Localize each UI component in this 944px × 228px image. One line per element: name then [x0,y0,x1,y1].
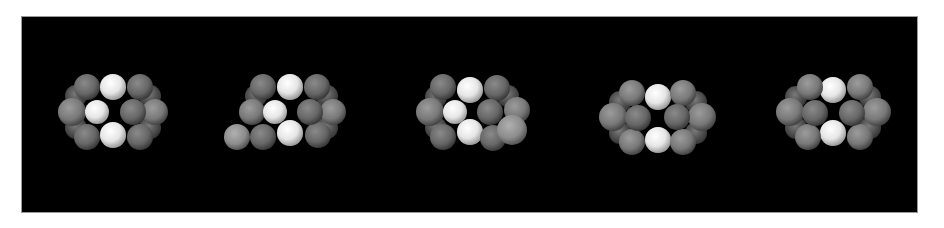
dark-atom [297,99,323,125]
mid-atom [416,98,444,126]
cluster-2 [224,74,346,150]
dark-atom [305,122,331,148]
dark-atom [304,74,330,100]
dark-atom [120,99,146,125]
white-atom [277,74,303,100]
white-atom [263,100,287,124]
light-atom [497,115,527,145]
mid-atom [619,129,645,155]
mid-atom [670,80,696,106]
dark-atom [430,74,456,100]
dark-atom [74,124,100,150]
dark-atom [802,100,828,126]
mid-atom [239,99,265,125]
mid-atom [863,98,891,126]
white-atom [820,120,846,146]
mid-atom [847,74,873,100]
mid-atom [670,129,696,155]
white-atom [645,127,671,153]
mid-atom [688,103,716,131]
cluster-3 [416,74,530,151]
mid-atom [795,124,821,150]
white-atom [443,100,467,124]
mid-atom [58,98,86,126]
mid-atom [776,98,804,126]
dark-atom [664,104,690,130]
white-atom [820,77,846,103]
dark-atom [127,74,153,100]
mid-atom [599,103,627,131]
white-atom [100,122,126,148]
cluster-1 [58,74,168,150]
dark-atom [625,105,651,131]
mid-atom [797,74,823,100]
clusters-layer [58,74,891,155]
light-atom [224,124,250,150]
white-atom [457,77,483,103]
mid-atom [320,99,346,125]
dark-atom [74,74,100,100]
dark-atom [127,124,153,150]
molecular-clusters-figure [0,0,944,228]
dark-atom [477,99,503,125]
dark-atom [430,124,456,150]
cluster-5 [776,74,891,150]
white-atom [100,74,126,100]
mid-atom [619,80,645,106]
cluster-4 [599,80,716,155]
white-atom [645,84,671,110]
white-atom [85,100,109,124]
dark-atom [839,100,865,126]
mid-atom [847,124,873,150]
dark-atom [250,124,276,150]
dark-atom [250,74,276,100]
white-atom [457,119,483,145]
dark-atom [484,75,510,101]
white-atom [277,120,303,146]
